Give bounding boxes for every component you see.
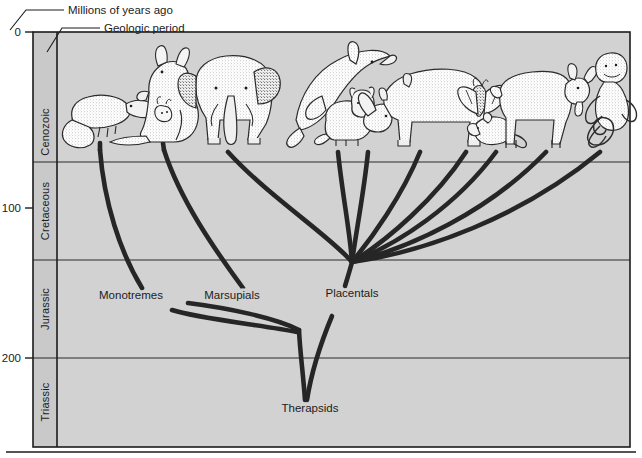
clade-label-monotremes: Monotremes <box>99 289 163 301</box>
axis-tick-0: 0 <box>15 26 21 38</box>
period-label-triassic: Triassic <box>39 382 51 421</box>
clade-label-therapsids: Therapsids <box>282 402 339 414</box>
axis-ticks <box>25 32 33 358</box>
clade-label-marsupials: Marsupials <box>204 289 260 301</box>
axis-tick-200: 200 <box>2 352 21 364</box>
branch-marsupials-tip <box>163 143 164 150</box>
period-label-jurassic: Jurassic <box>39 288 51 330</box>
period-column-title-label: Geologic period <box>104 22 185 34</box>
diagram-canvas: 0 100 200 Millions of years ago Geologic… <box>0 0 642 458</box>
period-label-cretaceous: Cretaceous <box>39 182 51 241</box>
axis-tick-100: 100 <box>2 202 21 214</box>
clade-label-placentals: Placentals <box>325 287 378 299</box>
evolution-diagram: 0 100 200 Millions of years ago Geologic… <box>0 0 642 458</box>
period-label-cenozoic: Cenozoic <box>39 108 51 156</box>
axis-title-label: Millions of years ago <box>68 4 173 16</box>
